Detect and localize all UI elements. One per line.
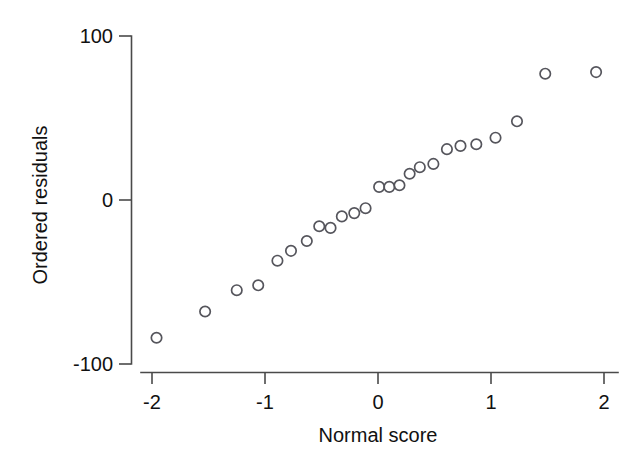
x-tick-label-0: 0: [372, 391, 383, 413]
data-point: [349, 208, 359, 218]
data-point: [200, 306, 210, 316]
data-point: [360, 203, 370, 213]
data-point: [374, 182, 384, 192]
data-point: [442, 144, 452, 154]
plot-canvas: 100 0 -100 -2 -1 0 1 2 Normal score Orde…: [0, 0, 632, 462]
y-axis-title: Ordered residuals: [29, 126, 51, 285]
data-point: [384, 182, 394, 192]
x-tick-label-neg1: -1: [256, 391, 274, 413]
data-point: [272, 255, 282, 265]
data-point: [151, 333, 161, 343]
data-point: [302, 236, 312, 246]
x-tick-label-1: 1: [485, 391, 496, 413]
data-point: [455, 141, 465, 151]
data-point: [314, 221, 324, 231]
data-point-group: [151, 67, 601, 343]
data-point: [286, 246, 296, 256]
data-point: [337, 211, 347, 221]
data-point: [591, 67, 601, 77]
data-point: [232, 285, 242, 295]
data-point: [404, 169, 414, 179]
data-point: [415, 162, 425, 172]
data-point: [428, 159, 438, 169]
x-axis-title: Normal score: [319, 424, 438, 446]
data-point: [540, 69, 550, 79]
x-tick-label-2: 2: [598, 391, 609, 413]
x-tick-label-neg2: -2: [143, 391, 161, 413]
normal-probability-plot-figure: 100 0 -100 -2 -1 0 1 2 Normal score Orde…: [0, 0, 632, 462]
y-tick-label-neg100: -100: [73, 353, 113, 375]
data-point: [471, 139, 481, 149]
y-tick-label-0: 0: [102, 189, 113, 211]
y-tick-label-100: 100: [80, 25, 113, 47]
data-point: [394, 180, 404, 190]
data-point: [512, 116, 522, 126]
data-point: [325, 223, 335, 233]
data-point: [253, 280, 263, 290]
data-point: [490, 132, 500, 142]
